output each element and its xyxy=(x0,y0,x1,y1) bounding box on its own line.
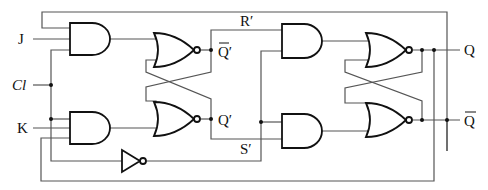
and-gate-k xyxy=(70,112,110,144)
nor-bubble xyxy=(194,116,200,122)
label-q-prime: Q′ xyxy=(218,112,232,128)
not-bubble xyxy=(140,158,146,164)
not-gate-clock xyxy=(122,150,140,172)
label-j: J xyxy=(18,31,24,47)
label-q-bar-prime: Q′ xyxy=(218,44,232,60)
label-cl: Cl xyxy=(12,77,26,93)
junction-dot xyxy=(209,48,213,52)
junction-dot xyxy=(49,83,53,87)
label-k: K xyxy=(17,120,28,136)
junction-dot xyxy=(49,117,53,121)
junction-dot xyxy=(445,118,449,122)
junction-dot xyxy=(432,48,436,52)
nor-gate-master-bottom xyxy=(154,102,194,136)
and-gate-r xyxy=(282,24,322,58)
junction-dot xyxy=(209,117,213,121)
nor-bubble xyxy=(194,47,200,53)
junction-dot xyxy=(420,48,424,52)
jk-flip-flop-diagram: J Cl K Q′ Q′ R′ S′ Q Q xyxy=(0,0,488,190)
label-q: Q xyxy=(464,42,475,58)
nor-gate-slave-bottom xyxy=(366,103,406,137)
junction-dot xyxy=(420,118,424,122)
label-q-bar: Q xyxy=(464,113,475,129)
label-r-prime: R′ xyxy=(240,13,253,29)
label-s-prime: S′ xyxy=(240,141,252,157)
nor-bubble xyxy=(406,47,412,53)
and-gate-j xyxy=(70,23,110,55)
nor-gate-master-top xyxy=(154,33,194,67)
junction-dot xyxy=(259,120,263,124)
nor-bubble xyxy=(406,117,412,123)
and-gate-s xyxy=(282,114,322,148)
nor-gate-slave-top xyxy=(366,33,406,67)
